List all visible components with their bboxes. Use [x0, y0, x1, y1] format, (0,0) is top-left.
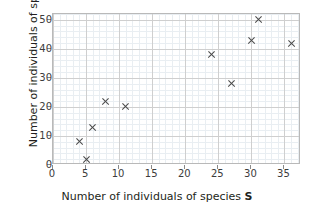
gridline [53, 130, 299, 131]
gridline [53, 26, 299, 27]
gridline [53, 124, 299, 125]
axis-variable: S [245, 190, 253, 203]
x-axis-title: Number of individuals of species S [0, 190, 314, 203]
data-point [82, 155, 91, 164]
gridline [192, 14, 193, 163]
gridline [106, 14, 107, 163]
gridline [73, 14, 74, 163]
y-tick-label: 0 [46, 159, 52, 170]
data-point [207, 50, 216, 59]
gridline [132, 14, 133, 163]
gridline [66, 14, 67, 163]
y-tick-label: 30 [39, 71, 52, 82]
scatter-chart: 0510152025303501020304050 Number of indi… [0, 0, 314, 213]
gridline [60, 14, 61, 163]
gridline [179, 14, 180, 163]
gridline [119, 14, 120, 163]
x-tick-label: 35 [277, 168, 290, 179]
x-tick-label: 10 [112, 168, 125, 179]
gridline [139, 14, 140, 163]
data-point [75, 137, 84, 146]
data-points [53, 14, 299, 163]
x-tick-label: 15 [145, 168, 158, 179]
gridline [212, 14, 213, 163]
data-point [287, 39, 296, 48]
gridline [53, 31, 299, 32]
gridline [218, 14, 219, 163]
data-point [247, 36, 256, 45]
gridline [165, 14, 166, 163]
gridline [53, 78, 299, 79]
gridline [225, 14, 226, 163]
x-tick-label: 20 [178, 168, 191, 179]
y-tick-label: 20 [39, 100, 52, 111]
x-tick-label: 30 [244, 168, 257, 179]
gridline [53, 113, 299, 114]
gridline [146, 14, 147, 163]
gridline [284, 14, 285, 163]
gridline [53, 119, 299, 120]
gridline [53, 20, 299, 21]
y-axis-title: Number of individuals of species R [0, 40, 108, 59]
gridline [53, 60, 299, 61]
gridline [53, 72, 299, 73]
gridline [251, 14, 252, 163]
gridline [245, 14, 246, 163]
gridline [232, 14, 233, 163]
data-point [254, 15, 263, 24]
gridline [172, 14, 173, 163]
gridline [251, 14, 252, 163]
gridline [53, 101, 299, 102]
gridline [86, 14, 87, 163]
gridline [119, 14, 120, 163]
gridline [53, 153, 299, 154]
gridline [53, 107, 299, 108]
gridline [159, 14, 160, 163]
gridline [291, 14, 292, 163]
gridline [99, 14, 100, 163]
gridline [265, 14, 266, 163]
gridline [126, 14, 127, 163]
gridline [53, 37, 299, 38]
gridline [218, 14, 219, 163]
gridline [53, 90, 299, 91]
plot-area [52, 13, 300, 164]
gridline [53, 107, 299, 108]
gridline [53, 136, 299, 137]
data-point [227, 79, 236, 88]
x-tick-label: 5 [82, 168, 88, 179]
gridline [284, 14, 285, 163]
gridline [198, 14, 199, 163]
gridline [53, 14, 54, 163]
gridlines [53, 14, 299, 163]
data-point [121, 102, 130, 111]
gridline [53, 148, 299, 149]
gridline [53, 14, 299, 15]
data-point [88, 123, 97, 132]
x-tick-label: 25 [211, 168, 224, 179]
gridline [298, 14, 299, 163]
gridline [79, 14, 80, 163]
gridline [152, 14, 153, 163]
gridline [278, 14, 279, 163]
gridline [152, 14, 153, 163]
y-tick-label: 50 [39, 13, 52, 24]
gridline [271, 14, 272, 163]
gridline [86, 14, 87, 163]
gridline [53, 14, 54, 163]
gridline [53, 95, 299, 96]
gridline [93, 14, 94, 163]
gridline [53, 142, 299, 143]
gridline [238, 14, 239, 163]
y-tick-label: 10 [39, 129, 52, 140]
gridline [205, 14, 206, 163]
gridline [53, 78, 299, 79]
gridline [258, 14, 259, 163]
gridline [53, 66, 299, 67]
gridline [53, 20, 299, 21]
x-tick-label: 0 [49, 168, 55, 179]
gridline [53, 136, 299, 137]
gridline [185, 14, 186, 163]
gridline [185, 14, 186, 163]
data-point [101, 97, 110, 106]
